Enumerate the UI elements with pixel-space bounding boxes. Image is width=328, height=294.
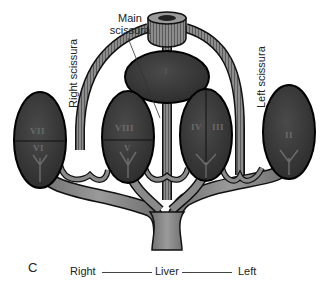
liver-segment-diagram: Main scissura Right scissura Left scissu… <box>0 0 328 294</box>
main-scissura-label: Main scissura <box>108 12 152 36</box>
segment-label-I: I <box>164 66 168 76</box>
liver-diagram-graphic <box>0 0 328 294</box>
segment-label-VI: VI <box>33 143 44 153</box>
segment-label-VIII: VIII <box>115 123 134 133</box>
axis-dash-right <box>182 272 232 273</box>
segment-label-III: III <box>212 122 224 132</box>
axis-liver-label: Liver <box>155 265 179 277</box>
axis-right-label: Right <box>70 265 96 277</box>
orientation-axis: Right Liver Left <box>0 265 328 279</box>
segment-label-VII: VII <box>30 126 45 136</box>
axis-dash-left <box>102 272 152 273</box>
axis-left-label: Left <box>238 265 256 277</box>
main-scissura-line1: Main <box>108 12 152 24</box>
left-scissura-label: Left scissura <box>255 46 267 108</box>
segment-label-II: II <box>285 130 293 140</box>
segment-label-IV: IV <box>191 122 202 132</box>
main-scissura-line2: scissura <box>108 24 152 36</box>
segment-label-V: V <box>124 143 131 153</box>
right-scissura-label: Right scissura <box>67 39 79 108</box>
